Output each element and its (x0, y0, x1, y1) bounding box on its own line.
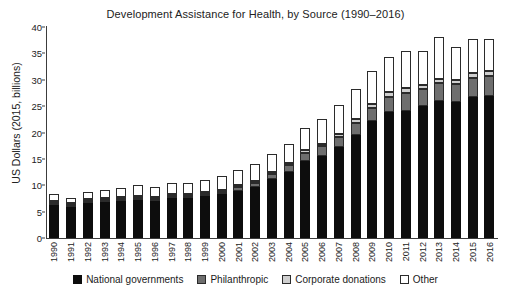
bar-segment-national-governments[interactable] (401, 111, 411, 238)
bar-column[interactable] (180, 27, 197, 238)
stacked-bar[interactable] (183, 183, 193, 238)
stacked-bar[interactable] (468, 39, 478, 238)
stacked-bar[interactable] (384, 57, 394, 238)
bar-column[interactable] (63, 27, 80, 238)
bar-column[interactable] (113, 27, 130, 238)
bar-column[interactable] (431, 27, 448, 238)
bar-segment-national-governments[interactable] (334, 147, 344, 238)
stacked-bar[interactable] (284, 144, 294, 238)
legend-item[interactable]: Corporate donations (282, 274, 386, 285)
bar-column[interactable] (364, 27, 381, 238)
stacked-bar[interactable] (300, 128, 310, 238)
bar-segment-national-governments[interactable] (83, 203, 93, 238)
bar-segment-national-governments[interactable] (300, 161, 310, 238)
stacked-bar[interactable] (418, 51, 428, 238)
bar-segment-other[interactable] (451, 47, 461, 80)
bar-segment-national-governments[interactable] (317, 156, 327, 238)
bar-segment-philanthropic[interactable] (351, 123, 361, 135)
bar-column[interactable] (297, 27, 314, 238)
stacked-bar[interactable] (83, 192, 93, 238)
bar-column[interactable] (79, 27, 96, 238)
stacked-bar[interactable] (66, 198, 76, 238)
bar-segment-philanthropic[interactable] (284, 165, 294, 172)
bar-column[interactable] (163, 27, 180, 238)
bar-column[interactable] (247, 27, 264, 238)
bar-column[interactable] (280, 27, 297, 238)
bar-segment-philanthropic[interactable] (451, 84, 461, 102)
bar-segment-other[interactable] (300, 128, 310, 150)
bar-segment-national-governments[interactable] (418, 106, 428, 238)
bar-segment-national-governments[interactable] (100, 202, 110, 238)
bar-segment-other[interactable] (133, 185, 143, 195)
bar-column[interactable] (464, 27, 481, 238)
bar-segment-other[interactable] (200, 180, 210, 193)
bar-segment-other[interactable] (468, 39, 478, 74)
bar-segment-other[interactable] (250, 164, 260, 180)
bar-segment-national-governments[interactable] (66, 207, 76, 238)
bar-segment-national-governments[interactable] (434, 101, 444, 238)
bar-segment-national-governments[interactable] (384, 112, 394, 238)
bar-segment-philanthropic[interactable] (484, 76, 494, 96)
bar-column[interactable] (230, 27, 247, 238)
bar-segment-philanthropic[interactable] (367, 108, 377, 122)
bar-segment-other[interactable] (384, 57, 394, 92)
bar-segment-national-governments[interactable] (484, 96, 494, 238)
stacked-bar[interactable] (451, 47, 461, 238)
bar-segment-national-governments[interactable] (49, 205, 59, 238)
bar-column[interactable] (381, 27, 398, 238)
bar-segment-philanthropic[interactable] (317, 146, 327, 155)
bar-column[interactable] (146, 27, 163, 238)
stacked-bar[interactable] (367, 71, 377, 238)
bar-segment-national-governments[interactable] (183, 198, 193, 238)
bar-segment-other[interactable] (284, 144, 294, 163)
stacked-bar[interactable] (150, 187, 160, 238)
stacked-bar[interactable] (434, 37, 444, 238)
bar-segment-other[interactable] (484, 39, 494, 71)
bar-column[interactable] (96, 27, 113, 238)
bar-segment-other[interactable] (83, 192, 93, 199)
legend-item[interactable]: National governments (73, 274, 183, 285)
stacked-bar[interactable] (49, 194, 59, 238)
stacked-bar[interactable] (217, 176, 227, 238)
bar-segment-national-governments[interactable] (200, 196, 210, 238)
stacked-bar[interactable] (401, 51, 411, 238)
bar-column[interactable] (397, 27, 414, 238)
stacked-bar[interactable] (317, 119, 327, 238)
bar-column[interactable] (46, 27, 63, 238)
bar-segment-other[interactable] (367, 71, 377, 104)
stacked-bar[interactable] (167, 183, 177, 238)
legend-item[interactable]: Philanthropic (197, 274, 268, 285)
bar-segment-other[interactable] (401, 51, 411, 88)
bar-segment-national-governments[interactable] (167, 198, 177, 238)
bar-segment-national-governments[interactable] (217, 194, 227, 238)
stacked-bar[interactable] (267, 154, 277, 238)
stacked-bar[interactable] (484, 39, 494, 238)
bar-segment-national-governments[interactable] (367, 121, 377, 238)
bar-segment-other[interactable] (434, 37, 444, 79)
bar-segment-national-governments[interactable] (233, 191, 243, 238)
bar-segment-other[interactable] (183, 183, 193, 195)
bar-segment-national-governments[interactable] (451, 102, 461, 238)
bar-segment-other[interactable] (317, 119, 327, 143)
bar-column[interactable] (481, 27, 498, 238)
bar-segment-philanthropic[interactable] (434, 83, 444, 100)
bar-column[interactable] (330, 27, 347, 238)
bar-segment-philanthropic[interactable] (384, 97, 394, 113)
bar-segment-national-governments[interactable] (150, 201, 160, 238)
bar-segment-other[interactable] (167, 183, 177, 194)
bar-column[interactable] (130, 27, 147, 238)
bar-segment-philanthropic[interactable] (300, 153, 310, 161)
bar-segment-philanthropic[interactable] (468, 78, 478, 97)
bar-segment-national-governments[interactable] (284, 172, 294, 238)
stacked-bar[interactable] (334, 105, 344, 238)
bar-segment-other[interactable] (217, 176, 227, 190)
bar-segment-other[interactable] (351, 89, 361, 120)
bar-column[interactable] (414, 27, 431, 238)
stacked-bar[interactable] (100, 190, 110, 238)
bar-segment-other[interactable] (267, 154, 277, 171)
stacked-bar[interactable] (200, 180, 210, 238)
bar-segment-other[interactable] (233, 170, 243, 185)
bar-segment-other[interactable] (100, 190, 110, 198)
bar-segment-other[interactable] (150, 187, 160, 198)
stacked-bar[interactable] (233, 170, 243, 238)
